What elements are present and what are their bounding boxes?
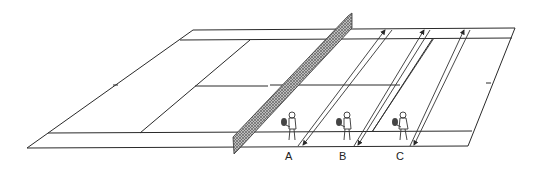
player-legs-icon [289,129,295,140]
far-singles-line [180,38,512,40]
player-body-icon [399,118,408,129]
arrow-c-outgoing [410,30,464,146]
net [233,13,352,154]
player-head-icon [344,112,350,118]
player-c [392,112,408,140]
arrow-b-outgoing [354,30,424,146]
player-body-icon [289,118,296,129]
tennis-court-diagram: A B C [0,0,543,171]
player-head-icon [400,112,406,118]
player-body-icon [344,118,351,129]
net-mesh [233,13,352,154]
near-singles-line [48,131,472,133]
player-b [336,112,351,140]
player-label-a: A [285,150,293,162]
player-label-b: B [339,150,346,162]
player-label-c: C [396,150,404,162]
arrow-a-return [303,30,392,145]
player-legs-icon [344,129,350,140]
arrow-b-return [358,30,430,145]
player-a [281,112,296,140]
arrow-a-outgoing [298,30,385,146]
player-head-icon [289,112,295,118]
player-legs-icon [400,129,407,140]
arrow-c-return [414,30,470,145]
